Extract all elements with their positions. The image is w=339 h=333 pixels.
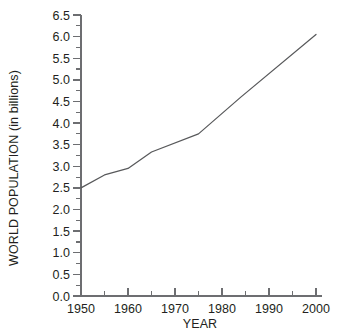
line-chart: 0.00.51.01.52.02.53.03.54.04.55.05.56.06… [0,0,339,333]
y-tick-label: 6.5 [53,9,70,23]
x-tick-label: 1980 [208,302,236,316]
y-tick-label: 1.5 [53,225,70,239]
y-tick-label: 0.5 [53,268,70,282]
x-tick-label: 1950 [67,302,95,316]
x-tick-label: 1990 [255,302,283,316]
x-tick-label: 1960 [114,302,142,316]
y-tick-label: 5.5 [53,52,70,66]
x-tick-label: 2000 [302,302,330,316]
y-tick-label: 4.5 [53,95,70,109]
y-tick-label: 2.0 [53,203,70,217]
y-tick-label: 2.5 [53,181,70,195]
x-axis-tick-labels: 195019601970198019902000 [67,302,330,316]
y-tick-label: 5.0 [53,73,70,87]
y-tick-label: 4.0 [53,117,70,131]
y-tick-label: 3.5 [53,138,70,152]
y-axis-title: WORLD POPULATION (in billions) [7,70,21,266]
y-axis-tick-labels: 0.00.51.01.52.02.53.03.54.04.55.05.56.06… [53,9,70,304]
y-tick-label: 1.0 [53,246,70,260]
x-axis-title: YEAR [183,317,217,331]
y-tick-label: 6.0 [53,30,70,44]
x-axis: 195019601970198019902000 [67,288,330,316]
y-axis: 0.00.51.01.52.02.53.03.54.04.55.05.56.06… [53,9,81,304]
x-tick-label: 1970 [161,302,189,316]
chart-figure: 0.00.51.01.52.02.53.03.54.04.55.05.56.06… [0,0,339,333]
y-tick-label: 3.0 [53,160,70,174]
data-series-line [81,34,316,187]
